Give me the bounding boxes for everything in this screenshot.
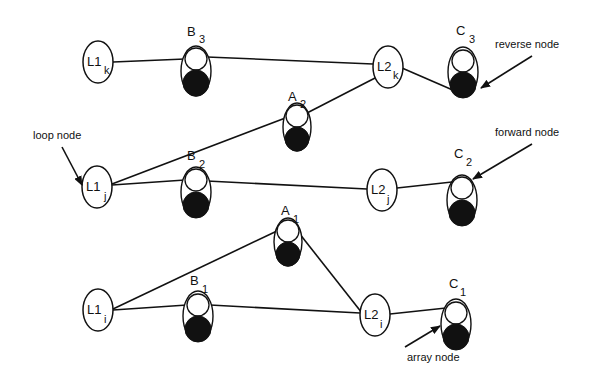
node-subscript: j [103, 190, 106, 202]
node-subscript: 2 [466, 156, 472, 168]
edge-B3-L2k [207, 57, 373, 64]
edge-L2j-C2 [397, 182, 452, 188]
edge-L1i-B1 [113, 305, 187, 310]
edge-L2i-C1 [390, 308, 446, 314]
annotation-text: reverse node [495, 38, 559, 50]
node-subscript: 3 [469, 33, 475, 45]
loop-node-L1j: L1 j [82, 166, 112, 208]
loop-node-L1k: L1 k [83, 41, 113, 83]
loop-node-L2k: L2 k [373, 46, 403, 88]
node-label: C [449, 276, 458, 291]
array-node-C3: C 3 [448, 23, 478, 98]
annotation-text: loop node [33, 129, 81, 141]
node-label: C [454, 146, 463, 161]
arrow-icon [62, 147, 82, 185]
annotation-forward-node: forward node [473, 126, 559, 179]
node-label: A [281, 203, 290, 218]
node-label: B [187, 148, 196, 163]
node-label: B [190, 273, 199, 288]
annotation-text: forward node [495, 126, 559, 138]
node-subscript: 1 [202, 283, 208, 295]
node-subscript: i [380, 318, 382, 330]
node-subscript: 1 [460, 286, 466, 298]
node-subscript: 3 [199, 33, 205, 45]
node-label: L2 [364, 307, 378, 322]
arrow-icon [405, 326, 440, 347]
array-node-B3: B 3 [181, 24, 211, 96]
edge-B1-L2i [210, 305, 360, 313]
node-subscript: 2 [199, 158, 205, 170]
node-subscript: 2 [300, 98, 306, 110]
edge-A2-L2k [307, 77, 377, 113]
edges [112, 57, 455, 314]
arrow-icon [473, 144, 532, 179]
node-label: L1 [87, 302, 101, 317]
array-node-C1: C 1 [441, 276, 471, 350]
node-label: L2 [371, 182, 385, 197]
loop-array-diagram: L1 k L2 k L1 j L2 j L1 i L2 i B 3 C 3 [0, 0, 600, 381]
edge-A1-L2i [299, 233, 362, 313]
edge-B2-L2j [207, 181, 367, 189]
node-label: L2 [377, 59, 391, 74]
node-label: L1 [87, 54, 101, 69]
array-node-A1: A 1 [274, 203, 302, 266]
node-label: C [456, 23, 465, 38]
arrow-icon [481, 56, 532, 88]
array-node-B2: B 2 [181, 148, 211, 218]
loop-node-L2i: L2 i [360, 294, 390, 336]
node-subscript: i [104, 313, 106, 325]
annotation-reverse-node: reverse node [481, 38, 559, 88]
edge-L2k-C3 [402, 68, 455, 91]
node-subscript: j [386, 193, 389, 205]
node-subscript: 1 [293, 213, 299, 225]
array-node-B1: B 1 [183, 273, 213, 342]
node-subscript: k [393, 69, 399, 81]
node-label: A [288, 89, 297, 104]
annotation-loop-node: loop node [33, 129, 82, 185]
annotation-text: array node [407, 351, 460, 363]
edge-L1k-B3 [113, 59, 185, 62]
array-node-A2: A 2 [283, 89, 311, 151]
loop-node-L2j: L2 j [367, 169, 397, 211]
edge-L1j-B2 [112, 180, 185, 185]
node-label: L1 [86, 179, 100, 194]
node-label: B [187, 24, 196, 39]
array-node-C2: C 2 [447, 146, 477, 226]
loop-node-L1i: L1 i [83, 289, 113, 331]
node-subscript: k [104, 64, 110, 76]
